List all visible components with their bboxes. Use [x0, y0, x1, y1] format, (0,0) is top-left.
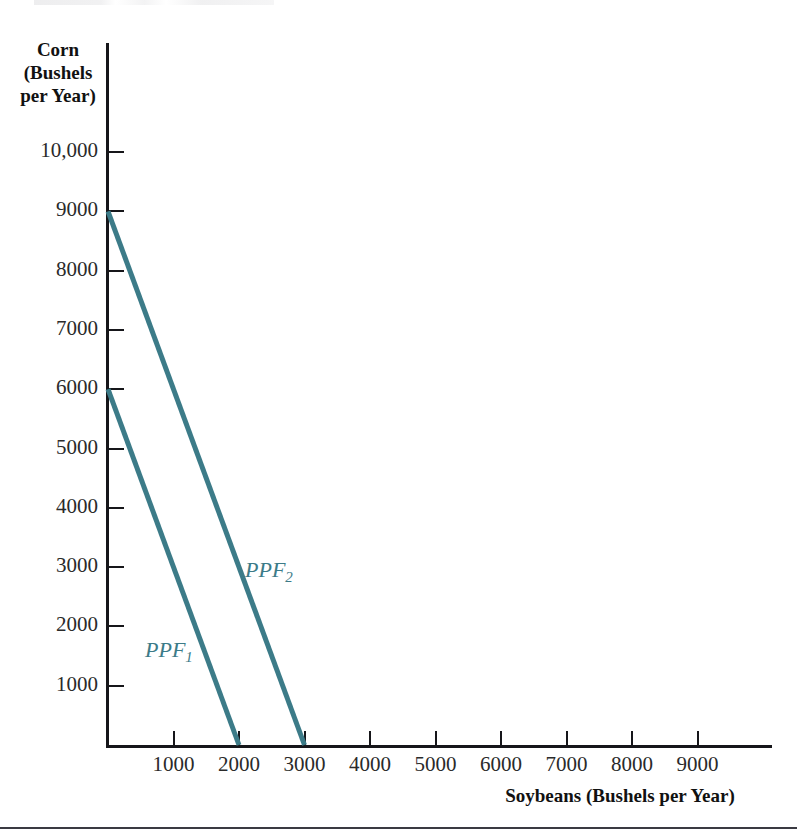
- series-line-ppf1: [108, 389, 239, 745]
- plot-series-layer: [0, 0, 797, 836]
- series-label-ppf1-text: PPF: [145, 637, 185, 662]
- series-label-ppf1: PPF1: [145, 637, 193, 666]
- production-possibilities-frontier-chart: 10002000300040005000600070008000900010,0…: [0, 0, 797, 836]
- series-label-ppf2-text: PPF: [245, 557, 285, 582]
- series-label-ppf2-subscript: 2: [285, 569, 293, 585]
- series-line-ppf2: [108, 211, 305, 745]
- series-label-ppf2: PPF2: [245, 557, 293, 586]
- series-label-ppf1-subscript: 1: [185, 649, 193, 665]
- page-bottom-rule: [0, 827, 797, 829]
